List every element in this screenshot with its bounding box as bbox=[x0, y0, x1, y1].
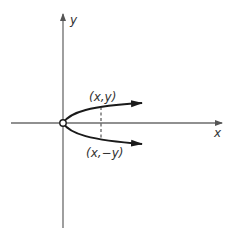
point-label-upper: (x,y) bbox=[89, 90, 116, 104]
x-axis-label: x bbox=[213, 126, 222, 140]
parabola-symmetry-diagram: y x (x,y) (x,−y) bbox=[0, 0, 239, 238]
origin-marker bbox=[60, 120, 66, 126]
y-axis-label: y bbox=[69, 13, 78, 27]
parabola-upper-branch bbox=[63, 103, 142, 123]
point-label-lower: (x,−y) bbox=[86, 146, 123, 160]
parabola-lower-branch bbox=[63, 123, 142, 144]
diagram-canvas: y x (x,y) (x,−y) bbox=[0, 0, 239, 238]
